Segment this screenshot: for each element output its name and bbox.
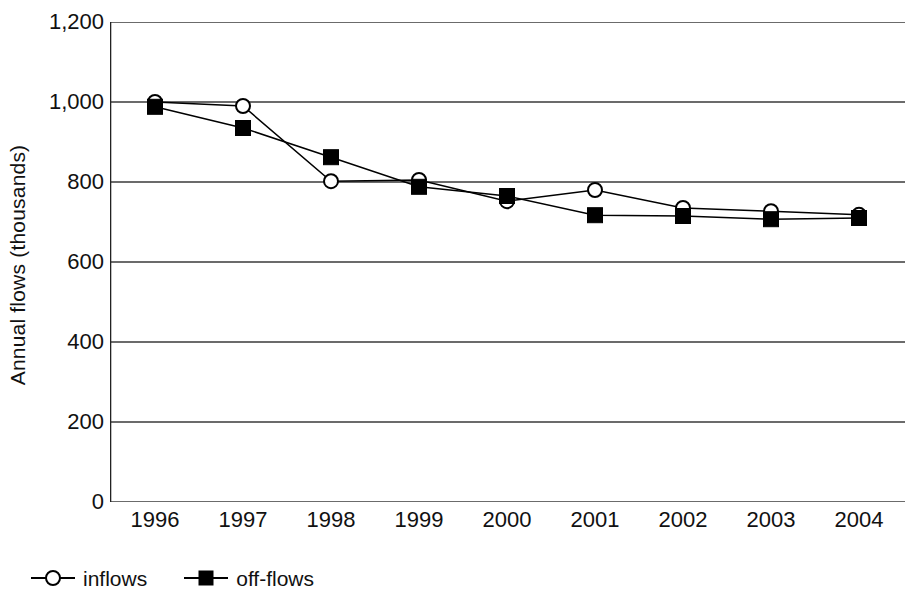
y-axis-tick-label: 800 bbox=[8, 171, 104, 193]
data-point-marker-off-flows bbox=[236, 121, 251, 136]
data-point-marker-inflows bbox=[588, 183, 602, 197]
data-point-marker-off-flows bbox=[676, 209, 691, 224]
legend-label: off-flows bbox=[236, 568, 314, 589]
legend-label: inflows bbox=[83, 568, 147, 589]
chart-canvas bbox=[110, 22, 905, 502]
filled-square-marker-icon bbox=[183, 567, 229, 589]
y-axis-tick-label: 600 bbox=[8, 251, 104, 273]
data-point-marker-off-flows bbox=[148, 99, 163, 114]
chart-legend: inflowsoff-flows bbox=[30, 558, 314, 598]
x-axis-tick-label: 2004 bbox=[799, 508, 909, 532]
data-point-marker-off-flows bbox=[764, 212, 779, 227]
legend-item-off-flows: off-flows bbox=[183, 567, 314, 589]
legend-item-inflows: inflows bbox=[30, 567, 147, 589]
open-circle-marker-icon bbox=[30, 567, 76, 589]
data-point-marker-off-flows bbox=[500, 189, 515, 204]
y-axis-tick-label: 1,000 bbox=[8, 91, 104, 113]
data-point-marker-off-flows bbox=[412, 179, 427, 194]
y-axis-tick-label: 200 bbox=[8, 411, 104, 433]
x-axis-tick-labels: 199619971998199920002001200220032004 bbox=[0, 508, 909, 548]
data-point-marker-off-flows bbox=[852, 211, 867, 226]
data-point-marker-off-flows bbox=[588, 208, 603, 223]
y-axis-tick-label: 1,200 bbox=[8, 11, 104, 33]
plot-area bbox=[110, 22, 905, 502]
data-point-marker-off-flows bbox=[324, 150, 339, 165]
line-chart-figure: Annual flows (thousands) 1,2001,00080060… bbox=[0, 0, 909, 601]
data-point-marker-inflows bbox=[236, 99, 250, 113]
y-axis-tick-label: 400 bbox=[8, 331, 104, 353]
data-point-marker-inflows bbox=[324, 174, 338, 188]
